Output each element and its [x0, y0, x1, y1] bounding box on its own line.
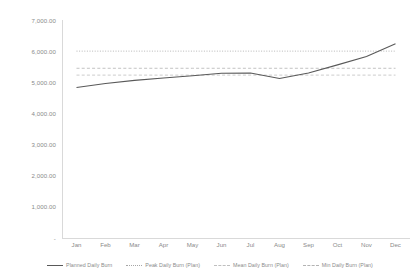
- x-tick-label: Nov: [361, 240, 372, 249]
- x-tick-label: Jun: [217, 240, 227, 249]
- legend-swatch-icon: [214, 263, 230, 268]
- x-tick-label: Feb: [100, 240, 111, 249]
- x-tick-label: Jul: [247, 240, 255, 249]
- y-tick-label: 7,000.00: [4, 17, 56, 24]
- x-tick-label: Sep: [303, 240, 314, 249]
- legend-swatch-icon: [47, 263, 63, 268]
- line-chart: -1,000.002,000.003,000.004,000.005,000.0…: [0, 0, 420, 279]
- y-axis-labels: -1,000.002,000.003,000.004,000.005,000.0…: [0, 0, 56, 279]
- x-tick-label: Jan: [72, 240, 82, 249]
- chart-legend: Planned Daily BurnPeak Daily Burn (Plan)…: [0, 258, 420, 272]
- x-tick-label: Apr: [159, 240, 168, 249]
- x-axis-labels: JanFebMarAprMayJunJulAugSepOctNovDec: [62, 240, 410, 252]
- x-tick-label: Aug: [274, 240, 285, 249]
- legend-swatch-icon: [303, 263, 319, 268]
- y-tick-label: 6,000.00: [4, 48, 56, 55]
- x-axis-line: [62, 238, 410, 239]
- legend-label: Mean Daily Burn (Plan): [233, 262, 289, 269]
- x-tick-label: May: [187, 240, 199, 249]
- legend-item[interactable]: Min Daily Burn (Plan): [303, 262, 373, 269]
- legend-label: Planned Daily Burn: [66, 262, 112, 269]
- y-tick-label: 5,000.00: [4, 79, 56, 86]
- plot-area: [62, 20, 410, 238]
- legend-item[interactable]: Mean Daily Burn (Plan): [214, 262, 289, 269]
- series-line: [77, 44, 396, 88]
- legend-label: Min Daily Burn (Plan): [322, 262, 373, 269]
- legend-item[interactable]: Planned Daily Burn: [47, 262, 112, 269]
- y-tick-label: 3,000.00: [4, 141, 56, 148]
- y-tick-label: 1,000.00: [4, 203, 56, 210]
- series-canvas: [62, 20, 410, 238]
- legend-swatch-icon: [126, 263, 142, 268]
- x-tick-label: Mar: [129, 240, 140, 249]
- legend-label: Peak Daily Burn (Plan): [145, 262, 200, 269]
- legend-item[interactable]: Peak Daily Burn (Plan): [126, 262, 200, 269]
- x-tick-label: Dec: [390, 240, 401, 249]
- y-tick-label: 4,000.00: [4, 110, 56, 117]
- y-tick-label: 2,000.00: [4, 172, 56, 179]
- y-tick-label: -: [4, 235, 56, 242]
- x-tick-label: Oct: [333, 240, 342, 249]
